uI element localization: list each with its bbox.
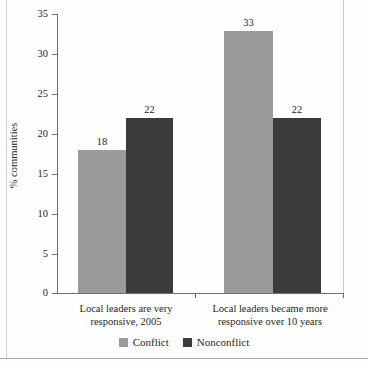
bar-nonconflict-group1[interactable] [126,118,173,293]
y-tick-label-0: 0 [8,288,48,299]
y-tick-label-30: 30 [8,49,48,60]
bar-value-conflict-group2: 33 [224,18,273,29]
y-tick-mark-0 [52,293,57,294]
plot-area: 18 22 33 22 [57,15,343,293]
figure-bottom-border [0,358,368,359]
legend-swatch-nonconflict-icon [183,338,192,347]
bar-value-nonconflict-group1: 22 [126,105,173,116]
bar-nonconflict-group2[interactable] [273,118,321,293]
bar-value-conflict-group1: 18 [78,137,126,148]
legend-item-nonconflict[interactable]: Nonconflict [183,337,250,348]
bar-conflict-group2[interactable] [224,31,273,293]
y-tick-label-10: 10 [8,209,48,220]
legend-item-conflict[interactable]: Conflict [119,337,169,348]
figure-right-border [343,0,344,295]
y-tick-label-25: 25 [8,89,48,100]
bar-value-nonconflict-group2: 22 [273,105,321,116]
bar-conflict-group1[interactable] [78,150,126,293]
x-category-label-group2-line1: Local leaders became more [196,302,344,315]
chart-legend: Conflict Nonconflict [0,337,368,348]
y-tick-label-20: 20 [8,129,48,140]
legend-label-conflict: Conflict [133,337,169,348]
x-axis-line [57,293,344,294]
x-axis-end-tick [343,293,344,298]
x-category-label-group2: Local leaders became more responsive ove… [196,302,344,328]
x-category-label-group1-line2: responsive, 2005 [57,315,195,328]
y-axis-label: % communities [8,96,19,216]
y-tick-label-35: 35 [8,9,48,20]
y-tick-label-15: 15 [8,169,48,180]
y-tick-label-5: 5 [8,249,48,260]
x-category-label-group2-line2: responsive over 10 years [196,315,344,328]
bar-chart-figure: % communities 35 30 25 20 15 10 5 0 18 2… [0,0,368,367]
x-category-label-group1: Local leaders are very responsive, 2005 [57,302,195,328]
legend-label-nonconflict: Nonconflict [197,337,250,348]
x-category-label-group1-line1: Local leaders are very [57,302,195,315]
legend-swatch-conflict-icon [119,338,128,347]
x-axis-group-separator [195,293,196,298]
